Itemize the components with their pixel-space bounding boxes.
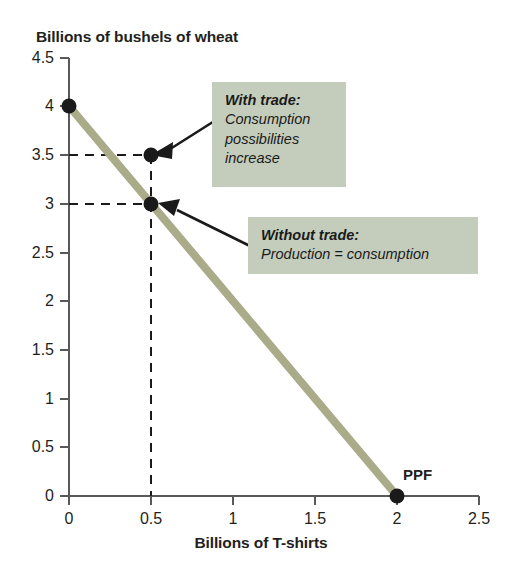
x-tick-label-1.5: 1.5 bbox=[304, 510, 326, 528]
x-tick-label-2.5: 2.5 bbox=[468, 510, 490, 528]
annotation-with-trade-line3: increase bbox=[225, 149, 334, 168]
y-axis-ticks bbox=[60, 58, 69, 496]
y-tick-label-0: 0 bbox=[8, 487, 54, 505]
x-axis-title: Billions of T-shirts bbox=[0, 534, 522, 552]
y-tick-label-4.5: 4.5 bbox=[8, 49, 54, 67]
with-trade-arrow bbox=[151, 120, 216, 159]
ppf-curve-label: PPF bbox=[403, 466, 432, 483]
y-tick-label-3: 3 bbox=[8, 195, 54, 213]
annotation-with-trade-title: With trade: bbox=[225, 91, 334, 110]
annotation-with-trade: With trade: Consumption possibilities in… bbox=[212, 82, 346, 187]
data-point-without-trade bbox=[144, 197, 159, 212]
annotation-with-trade-line1: Consumption bbox=[225, 110, 334, 129]
x-axis-ticks bbox=[69, 496, 479, 505]
guide-lines bbox=[69, 155, 151, 496]
y-tick-label-1: 1 bbox=[8, 390, 54, 408]
y-tick-label-2: 2 bbox=[8, 292, 54, 310]
data-point-tshirt-intercept bbox=[390, 489, 405, 504]
x-tick-label-0.5: 0.5 bbox=[140, 510, 162, 528]
x-tick-label-0: 0 bbox=[65, 510, 74, 528]
data-point-with-trade bbox=[144, 148, 159, 163]
y-tick-label-4: 4 bbox=[8, 97, 54, 115]
annotation-without-trade-line1: Production = consumption bbox=[261, 245, 466, 264]
y-tick-label-0.5: 0.5 bbox=[8, 438, 54, 456]
annotation-without-trade-body: Production = consumption bbox=[261, 245, 466, 264]
data-point-wheat-intercept bbox=[62, 99, 77, 114]
annotation-without-trade: Without trade: Production = consumption bbox=[248, 217, 478, 274]
x-tick-label-2: 2 bbox=[393, 510, 402, 528]
y-tick-label-2.5: 2.5 bbox=[8, 244, 54, 262]
annotation-with-trade-body: Consumption possibilities increase bbox=[225, 110, 334, 168]
annotation-with-trade-line2: possibilities bbox=[225, 130, 334, 149]
ppf-chart: Billions of bushels of wheat bbox=[0, 0, 522, 564]
x-tick-label-1: 1 bbox=[229, 510, 238, 528]
annotation-without-trade-title: Without trade: bbox=[261, 226, 466, 245]
y-tick-label-1.5: 1.5 bbox=[8, 341, 54, 359]
y-tick-label-3.5: 3.5 bbox=[8, 146, 54, 164]
